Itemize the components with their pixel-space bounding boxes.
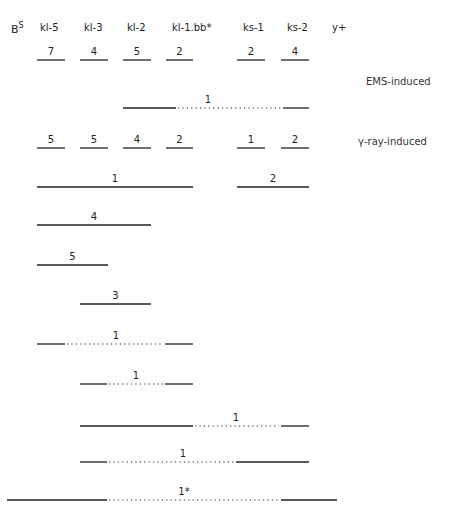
segment-count-label: 5 (134, 46, 140, 57)
segment-count-label: 3 (112, 290, 118, 301)
segment-count-label: 1 (133, 370, 139, 381)
segment-count-label: 1 (233, 412, 239, 423)
segment-count-label: 1* (178, 486, 189, 497)
segment-count-label: 4 (91, 211, 97, 222)
segment-count-label: 4 (292, 46, 298, 57)
segment-count-label: 5 (48, 134, 54, 145)
segment-count-label: 1 (248, 134, 254, 145)
segment-count-label: 1 (112, 173, 118, 184)
segment-count-label: 1 (113, 330, 119, 341)
segment-count-label: 5 (69, 251, 75, 262)
segment-count-label: 4 (134, 134, 140, 145)
segment-count-label: 2 (176, 46, 182, 57)
segment-count-label: 2 (176, 134, 182, 145)
segment-count-label: 5 (91, 134, 97, 145)
segment-count-label: 2 (248, 46, 254, 57)
segment-count-label: 4 (91, 46, 97, 57)
complementation-map: 74522415542121245311111* (0, 0, 453, 517)
segment-count-label: 1 (180, 448, 186, 459)
segment-count-label: 2 (270, 173, 276, 184)
segment-count-label: 2 (292, 134, 298, 145)
segment-count-label: 7 (48, 46, 54, 57)
segment-count-label: 1 (205, 94, 211, 105)
